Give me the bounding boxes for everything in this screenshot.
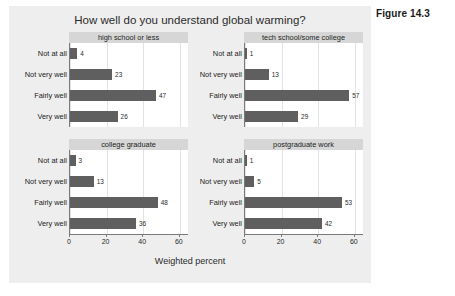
bar-row: Very well 26 (70, 106, 188, 127)
panel-high-school-or-less: high school or less Not at all 4 Not ver (17, 32, 188, 135)
x-tick-label: 60 (175, 238, 183, 245)
bar (70, 111, 118, 122)
x-tick (142, 234, 143, 237)
bar-value-label: 48 (161, 197, 168, 208)
bar-value-label: 13 (272, 69, 279, 80)
panel-postgraduate-work: postgraduate work Not at all 1 Not very (192, 139, 363, 242)
x-axis: 0 20 40 60 (244, 234, 363, 248)
bar (70, 197, 158, 208)
bar-value-label: 13 (97, 176, 104, 187)
bar-row: Fairly well 57 (245, 85, 363, 106)
x-tick (281, 234, 282, 237)
plot-area: Not at all 3 Not very well 13 Fairly wel… (69, 150, 188, 234)
bar (245, 155, 247, 166)
bar-value-label: 42 (325, 218, 332, 229)
bar-row: Fairly well 48 (70, 192, 188, 213)
category-label: Not at all (38, 155, 67, 166)
bar (245, 69, 269, 80)
bar-value-label: 23 (115, 69, 122, 80)
category-label: Very well (212, 218, 242, 229)
bar (245, 90, 349, 101)
bar (245, 111, 298, 122)
panel-tech-school-some-college: tech school/some college Not at all 1 No (192, 32, 363, 135)
bar-row: Very well 29 (245, 106, 363, 127)
bar-value-label: 3 (79, 155, 83, 166)
category-label: Fairly well (209, 90, 242, 101)
bar (245, 218, 322, 229)
chart-card: How well do you understand global warmin… (9, 6, 371, 283)
x-tick-label: 60 (350, 238, 358, 245)
category-label: Not very well (200, 69, 242, 80)
category-label: Not at all (213, 48, 242, 59)
bar (70, 69, 112, 80)
bar (70, 176, 94, 187)
plot-area: Not at all 1 Not very well 5 Fairly well (244, 150, 363, 234)
bar (245, 176, 254, 187)
bar-value-label: 36 (139, 218, 146, 229)
axis-line (244, 234, 363, 235)
category-label: Very well (37, 111, 67, 122)
bar-row: Not at all 1 (245, 150, 363, 171)
bar-value-label: 1 (250, 155, 254, 166)
bar-row: Fairly well 53 (245, 192, 363, 213)
bar-row: Not very well 13 (70, 171, 188, 192)
bar-row: Not very well 23 (70, 64, 188, 85)
bar-value-label: 57 (352, 90, 359, 101)
bar (70, 218, 136, 229)
figure-caption: Figure 14.3 (376, 8, 430, 19)
x-tick (179, 234, 180, 237)
bar-value-label: 4 (80, 48, 84, 59)
bar-value-label: 29 (301, 111, 308, 122)
x-tick (106, 234, 107, 237)
bar-row: Not at all 4 (70, 43, 188, 64)
category-label: Not at all (213, 155, 242, 166)
bar-value-label: 47 (159, 90, 166, 101)
bar-rows: Not at all 1 Not very well 13 Fairly wel… (245, 43, 363, 127)
bar (70, 155, 76, 166)
bar-row: Not very well 13 (245, 64, 363, 85)
x-tick-label: 0 (242, 238, 246, 245)
bar (70, 90, 156, 101)
bar-row: Very well 42 (245, 213, 363, 234)
x-tick (354, 234, 355, 237)
x-tick-label: 20 (102, 238, 110, 245)
bar-value-label: 1 (250, 48, 254, 59)
category-label: Fairly well (34, 90, 67, 101)
bar (245, 48, 247, 59)
plot-area: Not at all 1 Not very well 13 Fairly wel… (244, 43, 363, 127)
category-label: Not at all (38, 48, 67, 59)
bar-row: Very well 36 (70, 213, 188, 234)
panel-title: college graduate (69, 139, 188, 150)
x-tick-label: 0 (67, 238, 71, 245)
category-label: Very well (212, 111, 242, 122)
plot-area: Not at all 4 Not very well 23 Fairly wel… (69, 43, 188, 127)
panel-college-graduate: college graduate Not at all 3 Not very w (17, 139, 188, 242)
category-label: Fairly well (209, 197, 242, 208)
category-label: Not very well (200, 176, 242, 187)
category-label: Very well (37, 218, 67, 229)
x-tick (69, 234, 70, 237)
bar-row: Not at all 3 (70, 150, 188, 171)
chart-title: How well do you understand global warmin… (9, 14, 371, 26)
x-axis-label: Weighted percent (9, 256, 371, 266)
bar-value-label: 26 (121, 111, 128, 122)
category-label: Fairly well (34, 197, 67, 208)
panel-grid: high school or less Not at all 4 Not ver (9, 32, 371, 244)
figure-root: Figure 14.3 How well do you understand g… (0, 0, 455, 296)
panel-title: postgraduate work (244, 139, 363, 150)
x-tick-label: 20 (277, 238, 285, 245)
bar-value-label: 5 (257, 176, 261, 187)
category-label: Not very well (25, 176, 67, 187)
x-axis: 0 20 40 60 (69, 234, 188, 248)
bar-rows: Not at all 3 Not very well 13 Fairly wel… (70, 150, 188, 234)
bar-value-label: 53 (345, 197, 352, 208)
bar-rows: Not at all 1 Not very well 5 Fairly well (245, 150, 363, 234)
panel-title: tech school/some college (244, 32, 363, 43)
x-tick-label: 40 (138, 238, 146, 245)
x-tick (244, 234, 245, 237)
bar-row: Not at all 1 (245, 43, 363, 64)
bar-row: Fairly well 47 (70, 85, 188, 106)
bar (70, 48, 77, 59)
bar-rows: Not at all 4 Not very well 23 Fairly wel… (70, 43, 188, 127)
axis-line (69, 234, 188, 235)
